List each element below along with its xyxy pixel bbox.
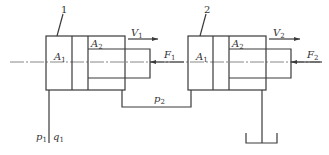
supply-flow-label: q1 (53, 131, 64, 144)
hydraulic-series-diagram: 1 A1 A2 V1 F1 2 A1 A2 V2 F2 p1 q1 p2 (0, 0, 329, 155)
cylinder-2-number: 2 (204, 4, 210, 15)
force-f2-label: F2 (306, 49, 318, 62)
force-f1-label: F1 (163, 49, 175, 62)
cylinder-2-leader (200, 14, 206, 36)
cylinder-1-rod (88, 49, 150, 78)
cylinder-1-number: 1 (61, 4, 67, 15)
intermediate-pressure-label: p2 (154, 93, 165, 106)
force-f1-arrow (150, 60, 184, 64)
velocity-v1-label: V1 (131, 27, 143, 40)
cylinder-2 (188, 14, 291, 90)
velocity-v2-label: V2 (273, 27, 285, 40)
cylinder-2-rod (229, 49, 291, 78)
cylinder-1-barrel (46, 36, 125, 90)
cylinder-2-barrel (188, 36, 266, 90)
supply-pressure-label: p1 (36, 131, 47, 144)
cylinder-1-leader (57, 14, 63, 36)
cylinder-1 (46, 14, 150, 90)
